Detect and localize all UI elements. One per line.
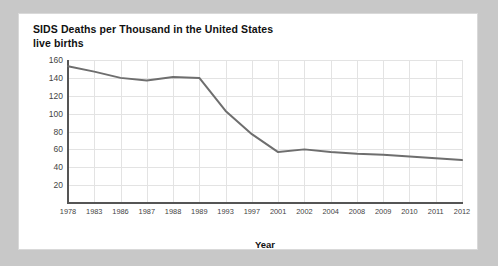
chart-title-line-2: live births: [33, 36, 433, 50]
x-tick-label-1988: 1988: [165, 207, 181, 216]
x-tick-label-2012: 2012: [454, 207, 470, 216]
x-tick-label-2010: 2010: [401, 207, 417, 216]
plot-area: 20406080100120140160 1978198319861987198…: [68, 60, 462, 203]
x-tick-label-1993: 1993: [217, 207, 233, 216]
x-tick-label-2009: 2009: [375, 207, 391, 216]
x-axis-title: Year: [68, 239, 462, 250]
chart-screenshot: SIDS Deaths per Thousand in the United S…: [0, 0, 498, 266]
y-tick-label-120: 120: [49, 91, 63, 101]
y-tick-label-60: 60: [54, 144, 63, 154]
x-tick-label-1989: 1989: [191, 207, 207, 216]
y-tick-label-40: 40: [54, 162, 63, 172]
y-tick-label-140: 140: [49, 73, 63, 83]
x-tick-label-2004: 2004: [322, 207, 338, 216]
y-tick-label-100: 100: [49, 109, 63, 119]
y-tick-label-160: 160: [49, 55, 63, 65]
y-tick-label-80: 80: [54, 127, 63, 137]
x-tick-label-1978: 1978: [60, 207, 76, 216]
x-tick-label-2002: 2002: [296, 207, 312, 216]
chart-panel: SIDS Deaths per Thousand in the United S…: [18, 13, 478, 250]
chart-title-line-1: SIDS Deaths per Thousand in the United S…: [33, 22, 433, 36]
x-tick-label-2008: 2008: [349, 207, 365, 216]
x-tick-label-2011: 2011: [428, 207, 444, 216]
chart-title: SIDS Deaths per Thousand in the United S…: [33, 22, 433, 50]
series-sids-rate-line: [68, 66, 462, 160]
plot-inner: 20406080100120140160 1978198319861987198…: [68, 60, 462, 203]
y-tick-label-20: 20: [54, 180, 63, 190]
x-tick-label-1987: 1987: [139, 207, 155, 216]
x-tick-label-1997: 1997: [244, 207, 260, 216]
x-tick-label-2001: 2001: [270, 207, 286, 216]
x-tick-label-1983: 1983: [86, 207, 102, 216]
gridline-x-2012: [462, 60, 463, 203]
x-tick-label-1986: 1986: [112, 207, 128, 216]
data-line-series: [68, 60, 462, 203]
